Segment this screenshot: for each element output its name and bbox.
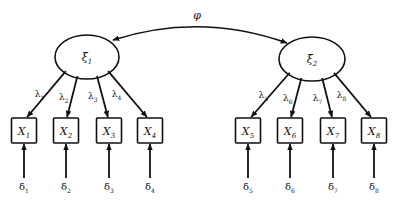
observed-indicators: X1X2X3X4X5X6X7X8 xyxy=(12,118,387,143)
cfa-path-diagram: φ ξ1ξ2 λ1λ2λ3λ4λ5λ6λ7λ8 X1X2X3X4X5X6X7X8… xyxy=(0,0,401,208)
indicator-X8: X8 xyxy=(362,118,387,143)
covariance-label: φ xyxy=(193,9,201,22)
error-label: δ5 xyxy=(243,181,253,194)
indicator-X2: X2 xyxy=(54,118,79,143)
loading-arrow xyxy=(322,78,332,117)
indicator-X6: X6 xyxy=(278,118,303,143)
loading-label: λ4 xyxy=(112,89,122,101)
error-label: δ3 xyxy=(104,181,114,194)
loading-label: λ5 xyxy=(259,90,269,102)
covariance-arc xyxy=(113,27,287,43)
loading-label: λ8 xyxy=(337,90,347,102)
indicator-X1: X1 xyxy=(12,118,37,143)
loading-label: λ3 xyxy=(88,91,98,103)
diagram-canvas: φ ξ1ξ2 λ1λ2λ3λ4λ5λ6λ7λ8 X1X2X3X4X5X6X7X8… xyxy=(0,0,401,208)
indicator-X3: X3 xyxy=(97,118,122,143)
loading-arrow xyxy=(97,76,108,117)
loading-label: λ2 xyxy=(59,92,69,104)
error-label: δ4 xyxy=(145,181,155,194)
measurement-errors: δ1δ2δ3δ4δ5δ6δ7δ8 xyxy=(19,144,379,194)
error-label: δ2 xyxy=(61,181,71,194)
loading-label: λ6 xyxy=(283,93,293,105)
error-label: δ1 xyxy=(19,181,29,194)
error-label: δ7 xyxy=(328,181,338,194)
error-label: δ6 xyxy=(285,181,295,194)
loading-label: λ7 xyxy=(313,93,323,105)
indicator-X7: X7 xyxy=(321,118,346,143)
indicator-X4: X4 xyxy=(138,118,163,143)
loading-label: λ1 xyxy=(35,89,45,101)
loading-arrow xyxy=(291,78,301,117)
loading-arrow xyxy=(67,76,77,117)
latent-factors: ξ1ξ2 xyxy=(55,35,345,81)
indicator-X5: X5 xyxy=(236,118,261,143)
error-label: δ8 xyxy=(369,181,379,194)
